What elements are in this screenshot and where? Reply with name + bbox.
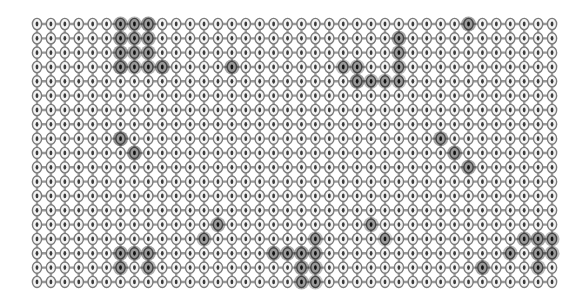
lattice-node (478, 33, 487, 44)
lattice-node (241, 262, 250, 273)
lattice-node (325, 276, 334, 287)
lattice-node (450, 76, 459, 87)
lattice-node (32, 233, 41, 244)
lattice-node (297, 190, 306, 201)
lattice-node (102, 276, 111, 287)
lattice-node (255, 119, 264, 130)
lattice-node (32, 176, 41, 187)
lattice-node (380, 18, 389, 29)
lattice-node (186, 33, 195, 44)
lattice-node (130, 90, 139, 101)
lattice-node (520, 47, 529, 58)
highlighted-node (534, 262, 543, 273)
lattice-node (46, 76, 55, 87)
lattice-node (255, 18, 264, 29)
lattice-node (297, 33, 306, 44)
lattice-node (269, 76, 278, 87)
highlighted-node (450, 147, 459, 158)
lattice-node (269, 233, 278, 244)
lattice-node (241, 33, 250, 44)
lattice-node (241, 61, 250, 72)
lattice-node (311, 219, 320, 230)
lattice-node (534, 18, 543, 29)
lattice-node (283, 176, 292, 187)
lattice-node (506, 219, 515, 230)
lattice-node (353, 33, 362, 44)
lattice-node (74, 233, 83, 244)
lattice-node (408, 61, 417, 72)
lattice-node (116, 205, 125, 216)
lattice-node (297, 61, 306, 72)
highlighted-node (158, 61, 167, 72)
lattice-node (241, 205, 250, 216)
lattice-node (478, 104, 487, 115)
lattice-node (297, 133, 306, 144)
lattice-node (408, 190, 417, 201)
lattice-node (46, 147, 55, 158)
lattice-node (186, 176, 195, 187)
lattice-node (478, 61, 487, 72)
lattice-node (436, 190, 445, 201)
highlighted-node (297, 276, 306, 287)
lattice-node (478, 76, 487, 87)
lattice-node (88, 119, 97, 130)
lattice-node (547, 205, 556, 216)
highlighted-node (144, 262, 153, 273)
lattice-node (436, 47, 445, 58)
lattice-node (394, 219, 403, 230)
lattice-node (492, 276, 501, 287)
lattice-node (186, 90, 195, 101)
lattice-node (534, 104, 543, 115)
lattice-node (297, 219, 306, 230)
lattice-node (102, 104, 111, 115)
lattice-node (422, 119, 431, 130)
lattice-node (506, 133, 515, 144)
lattice-node (325, 262, 334, 273)
lattice-node (339, 90, 348, 101)
lattice-node (325, 47, 334, 58)
lattice-node (88, 90, 97, 101)
lattice-node (394, 18, 403, 29)
lattice-node (172, 119, 181, 130)
lattice-node (450, 47, 459, 58)
lattice-node (547, 147, 556, 158)
lattice-node (353, 248, 362, 259)
lattice-node (116, 90, 125, 101)
lattice-node (158, 233, 167, 244)
lattice-node (422, 219, 431, 230)
lattice-node (311, 18, 320, 29)
lattice-node (116, 190, 125, 201)
lattice-node (366, 190, 375, 201)
lattice-node (297, 205, 306, 216)
lattice-node (130, 104, 139, 115)
lattice-node (478, 147, 487, 158)
lattice-node (366, 176, 375, 187)
lattice-node (130, 190, 139, 201)
lattice-node (422, 233, 431, 244)
lattice-node (102, 90, 111, 101)
lattice-node (144, 76, 153, 87)
lattice-node (199, 219, 208, 230)
lattice-node (492, 147, 501, 158)
lattice-node (436, 233, 445, 244)
lattice-node (227, 162, 236, 173)
lattice-node (116, 119, 125, 130)
lattice-node (311, 104, 320, 115)
lattice-node (199, 33, 208, 44)
lattice-node (325, 18, 334, 29)
lattice-node (492, 190, 501, 201)
lattice-node (130, 233, 139, 244)
lattice-node (492, 33, 501, 44)
lattice-node (394, 233, 403, 244)
lattice-node (380, 133, 389, 144)
lattice-node (199, 76, 208, 87)
lattice-node (547, 18, 556, 29)
lattice-node (408, 119, 417, 130)
lattice-node (394, 147, 403, 158)
lattice-node (450, 205, 459, 216)
lattice-node (353, 262, 362, 273)
lattice-node (520, 248, 529, 259)
lattice-node (158, 76, 167, 87)
lattice-node (130, 262, 139, 273)
lattice-node (144, 162, 153, 173)
